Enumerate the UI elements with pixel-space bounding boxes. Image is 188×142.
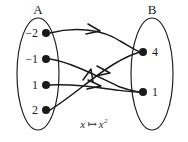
caption-exponent: 2 bbox=[104, 117, 108, 125]
set-b-ellipse bbox=[131, 18, 173, 130]
function-mapping-diagram: A B −2 −1 1 2 4 1 x↦x2 bbox=[0, 0, 188, 142]
element-label-a-neg2: −2 bbox=[14, 27, 38, 39]
mapsto-icon: ↦ bbox=[85, 118, 98, 130]
set-b-label: B bbox=[142, 3, 162, 16]
element-label-b-1: 1 bbox=[152, 86, 176, 98]
dot-b-1 bbox=[139, 88, 147, 96]
set-b-dots-group bbox=[139, 48, 147, 96]
dot-a-2 bbox=[42, 106, 50, 114]
element-label-a-1: 1 bbox=[14, 79, 38, 91]
dot-a-neg1 bbox=[42, 55, 50, 63]
element-label-a-2: 2 bbox=[14, 104, 38, 116]
set-a-label: A bbox=[28, 3, 48, 16]
element-label-a-neg1: −1 bbox=[14, 53, 38, 65]
dot-b-4 bbox=[139, 48, 147, 56]
mapping-arrows-group bbox=[50, 30, 140, 110]
dot-a-1 bbox=[42, 81, 50, 89]
arrow-path-2-to-4 bbox=[50, 52, 140, 110]
element-label-b-4: 4 bbox=[152, 46, 176, 58]
set-a-dots-group bbox=[42, 29, 50, 114]
arrow-path-neg2-to-4 bbox=[50, 30, 140, 52]
function-caption: x↦x2 bbox=[0, 118, 188, 130]
dot-a-neg2 bbox=[42, 29, 50, 37]
